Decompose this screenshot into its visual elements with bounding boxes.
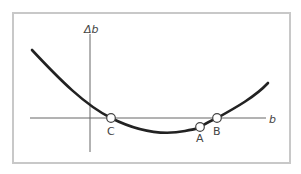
point-c-marker xyxy=(107,114,116,123)
diagram-canvas: Δb b C A B xyxy=(0,0,301,174)
curve xyxy=(32,50,268,133)
point-b-marker xyxy=(213,114,222,123)
point-c-label: C xyxy=(107,125,115,138)
point-a-label: A xyxy=(196,132,204,145)
y-axis-label: Δb xyxy=(83,23,99,36)
point-b-label: B xyxy=(213,125,221,138)
point-a-marker xyxy=(196,123,205,132)
x-axis-label: b xyxy=(269,113,276,126)
